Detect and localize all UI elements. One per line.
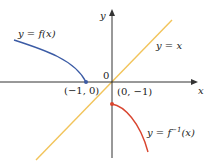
f-endpoint-label: (−1, 0) bbox=[64, 86, 99, 96]
x-axis-arrow-icon bbox=[191, 79, 198, 85]
graph-canvas bbox=[0, 0, 212, 164]
f-inverse-curve-label: y = f−1(x) bbox=[147, 127, 195, 138]
f-endpoint-dot bbox=[84, 80, 88, 84]
y-axis-label: y bbox=[100, 11, 106, 21]
inverse-function-diagram: y = f(x) y x 0 y = x (−1, 0) (0, −1) y =… bbox=[0, 0, 212, 164]
f-inverse-endpoint-label: (0, −1) bbox=[117, 87, 152, 97]
f-inverse-curve bbox=[112, 104, 148, 152]
origin-label: 0 bbox=[103, 71, 109, 81]
x-axis-label: x bbox=[198, 86, 204, 96]
f-inverse-endpoint-dot bbox=[110, 102, 114, 106]
y-axis-arrow-icon bbox=[109, 9, 115, 16]
f-curve bbox=[14, 40, 86, 82]
identity-label: y = x bbox=[156, 41, 182, 51]
f-curve-label: y = f(x) bbox=[18, 29, 56, 39]
